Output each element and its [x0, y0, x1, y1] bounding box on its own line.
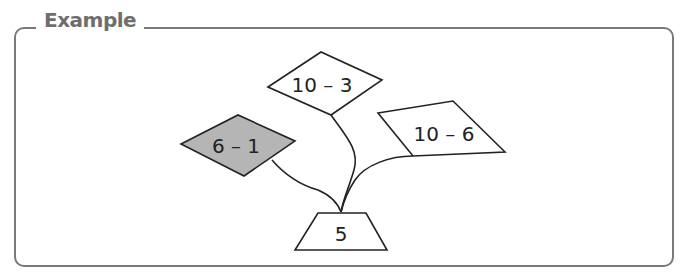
node-label: 10 – 6 — [414, 122, 475, 146]
node-label: 5 — [335, 222, 348, 246]
node-root-5: 5 — [295, 213, 387, 250]
stem-6-1 — [272, 160, 341, 212]
node-label: 10 – 3 — [292, 73, 353, 97]
node-10-3: 10 – 3 — [268, 52, 382, 115]
number-tree-diagram: 10 – 3 6 – 1 10 – 6 5 — [0, 0, 687, 278]
stem-10-6 — [341, 156, 413, 212]
stem-10-3 — [331, 115, 355, 212]
node-10-6: 10 – 6 — [378, 101, 505, 156]
node-label: 6 – 1 — [212, 134, 260, 158]
